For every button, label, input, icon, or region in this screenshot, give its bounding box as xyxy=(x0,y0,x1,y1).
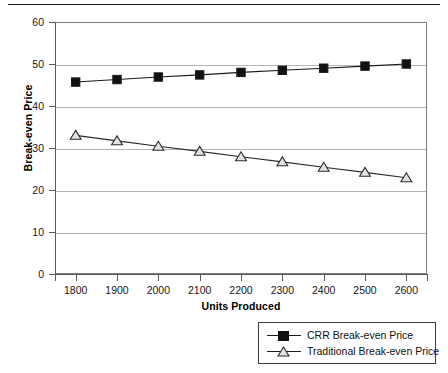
x-tick-2200 xyxy=(241,274,242,281)
x-tick-2500 xyxy=(365,274,366,281)
x-tick-1800 xyxy=(76,274,77,281)
chart-figure: 0102030405060 18001900200021002200230024… xyxy=(0,0,448,373)
x-tick-edge-left xyxy=(55,274,56,281)
gridline-y-20 xyxy=(56,191,426,192)
gridline-y-40 xyxy=(56,107,426,108)
legend-item-traditional: Traditional Break-even Price xyxy=(267,344,439,358)
y-tick-40 xyxy=(49,106,56,107)
top-horizontal-rule xyxy=(8,4,440,5)
gridline-y-10 xyxy=(56,233,426,234)
x-tick-2300 xyxy=(282,274,283,281)
x-tick-2000 xyxy=(158,274,159,281)
chart-legend: CRR Break-even Price Traditional Break-e… xyxy=(258,322,436,364)
y-tick-30 xyxy=(49,148,56,149)
y-tick-label-10: 10 xyxy=(4,227,44,238)
x-tick-2400 xyxy=(324,274,325,281)
y-tick-10 xyxy=(49,232,56,233)
legend-marker-open-triangle-icon xyxy=(267,345,301,358)
plot-area xyxy=(55,22,427,274)
x-tick-1900 xyxy=(117,274,118,281)
y-tick-20 xyxy=(49,190,56,191)
legend-item-crr: CRR Break-even Price xyxy=(267,328,413,342)
x-tick-2100 xyxy=(200,274,201,281)
legend-label-traditional: Traditional Break-even Price xyxy=(307,345,439,357)
gridline-y-30 xyxy=(56,149,426,150)
y-tick-60 xyxy=(49,22,56,23)
y-tick-label-60: 60 xyxy=(4,17,44,28)
x-tick-2600 xyxy=(406,274,407,281)
legend-marker-filled-square-icon xyxy=(267,329,301,342)
x-axis-title: Units Produced xyxy=(55,300,427,312)
y-tick-label-0: 0 xyxy=(4,269,44,280)
gridline-y-50 xyxy=(56,65,426,66)
y-axis-title: Break-even Price xyxy=(22,48,34,208)
legend-label-crr: CRR Break-even Price xyxy=(307,329,413,341)
x-tick-edge-right xyxy=(427,274,428,281)
y-tick-50 xyxy=(49,64,56,65)
x-tick-label-2600: 2600 xyxy=(376,285,436,296)
